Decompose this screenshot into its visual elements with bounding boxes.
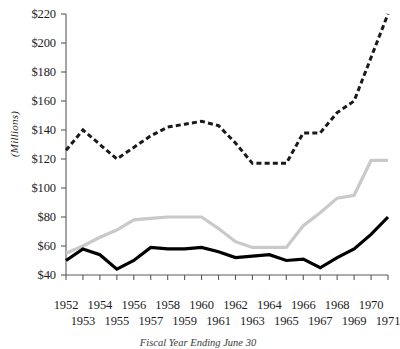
x-tick-label: 1966 [291, 298, 316, 313]
x-tick-label: 1953 [71, 314, 96, 329]
x-tick-label: 1964 [257, 298, 282, 313]
x-tick-label: 1959 [172, 314, 197, 329]
x-tick-label: 1957 [138, 314, 163, 329]
x-tick-label: 1969 [342, 314, 367, 329]
x-tick-label: 1968 [325, 298, 350, 313]
x-tick-label: 1963 [240, 314, 265, 329]
data-series-layer [66, 14, 388, 269]
gray-series-line [66, 160, 388, 253]
x-tick-label: 1956 [121, 298, 146, 313]
x-tick-label: 1955 [105, 314, 130, 329]
dashed-series-line [66, 14, 388, 163]
x-tick-label: 1958 [155, 298, 180, 313]
x-tick-label: 1962 [223, 298, 248, 313]
x-tick-label: 1967 [308, 314, 333, 329]
x-tick-label: 1970 [359, 298, 384, 313]
x-tick-label: 1971 [376, 314, 400, 329]
x-tick-label: 1960 [189, 298, 214, 313]
figure-caption: Fiscal Year Ending June 30 [0, 337, 396, 348]
x-tick-label: 1952 [54, 298, 79, 313]
x-tick-label: 1965 [274, 314, 299, 329]
x-tick-label: 1954 [88, 298, 113, 313]
black-series-line [66, 217, 388, 269]
x-tick-label: 1961 [206, 314, 231, 329]
x-axis-tick-marks [66, 275, 388, 280]
y-axis-tick-marks [61, 14, 66, 275]
